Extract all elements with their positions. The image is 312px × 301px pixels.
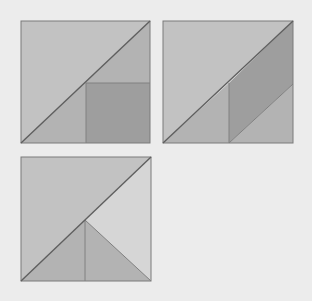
figure-1-inscribed-square <box>86 83 150 143</box>
figure-1 <box>21 21 150 143</box>
figure-2 <box>163 21 293 143</box>
figure-3 <box>21 157 151 281</box>
diagram-canvas <box>0 0 312 301</box>
